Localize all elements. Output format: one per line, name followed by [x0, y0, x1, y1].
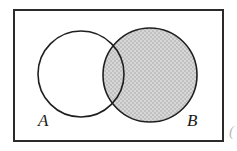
venn-diagram-canvas: A B (	[0, 0, 237, 151]
set-a-label: A	[37, 111, 49, 130]
venn-diagram-figure: A B (	[0, 0, 237, 151]
set-b-label: B	[187, 111, 198, 130]
